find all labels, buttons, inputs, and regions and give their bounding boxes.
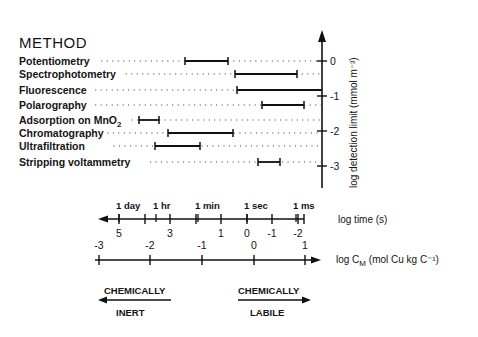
svg-text:CHEMICALLY: CHEMICALLY xyxy=(238,285,300,296)
time-tick-label: 0 xyxy=(244,227,250,239)
method-label: Fluorescence xyxy=(19,84,87,96)
chemically-labile-annotation: CHEMICALLY LABILE xyxy=(238,285,311,318)
arrow-right-icon xyxy=(311,257,321,264)
arrow-up-icon xyxy=(318,30,326,42)
cm-tick-label: -3 xyxy=(94,239,103,251)
method-row: Stripping voltammetry xyxy=(19,156,321,168)
method-row: Chromatography xyxy=(19,127,321,139)
cm-tick-label: 0 xyxy=(251,239,257,251)
method-row: Polarography xyxy=(19,99,321,111)
method-row: Ultrafiltration xyxy=(19,140,321,152)
y-axis-title: log detection limit (mmol m⁻³) xyxy=(348,57,359,188)
method-label: Polarography xyxy=(19,99,87,111)
chemically-inert-annotation: CHEMICALLY INERT xyxy=(98,285,171,318)
method-label: Chromatography xyxy=(19,127,104,139)
time-axis: 1 day1 hr1 min1 sec1 ms 5310-1-2 log tim… xyxy=(98,200,387,239)
time-tick-label: 1 xyxy=(218,227,224,239)
cm-axis: -3-2-101 log CM (mol Cu kg C⁻¹) xyxy=(94,239,439,268)
cm-axis-title: log CM (mol Cu kg C⁻¹) xyxy=(336,254,439,268)
method-heading: METHOD xyxy=(19,34,87,51)
time-tick-label: 5 xyxy=(116,227,122,239)
y-tick-label: -3 xyxy=(330,160,339,172)
arrow-left-icon xyxy=(98,216,108,223)
time-marker-label: 1 day xyxy=(116,200,141,211)
time-marker-label: 1 sec xyxy=(244,200,268,211)
method-row: Spectrophotometry xyxy=(19,68,321,80)
y-tick-label: -1 xyxy=(330,90,339,102)
time-axis-title: log time (s) xyxy=(338,214,387,225)
arrow-left-icon xyxy=(98,297,107,304)
svg-text:CHEMICALLY: CHEMICALLY xyxy=(104,285,166,296)
method-rows: PotentiometrySpectrophotometryFluorescen… xyxy=(19,55,322,168)
time-tick-label: -2 xyxy=(293,227,302,239)
svg-text:LABILE: LABILE xyxy=(250,307,284,318)
method-label: Stripping voltammetry xyxy=(19,156,131,168)
cm-tick-label: -2 xyxy=(145,239,154,251)
time-marker-label: 1 min xyxy=(195,200,220,211)
method-row: Fluorescence xyxy=(19,84,322,96)
method-label: Spectrophotometry xyxy=(19,68,116,80)
time-tick-label: 3 xyxy=(167,227,173,239)
detection-limit-axis: 0-1-2-3 log detection limit (mmol m⁻³) xyxy=(317,30,359,188)
time-tick-label: -1 xyxy=(267,227,276,239)
method-label: Potentiometry xyxy=(19,55,90,67)
detection-limit-diagram: METHOD PotentiometrySpectrophotometryFlu… xyxy=(0,0,478,337)
arrow-right-icon xyxy=(302,297,311,304)
svg-text:INERT: INERT xyxy=(116,307,145,318)
y-tick-label: -2 xyxy=(330,125,339,137)
cm-tick-label: 1 xyxy=(302,239,308,251)
time-marker-label: 1 ms xyxy=(293,200,315,211)
method-label: Ultrafiltration xyxy=(19,140,85,152)
y-tick-label: 0 xyxy=(330,55,336,67)
method-row: Potentiometry xyxy=(19,55,321,67)
cm-tick-label: -1 xyxy=(197,239,206,251)
time-marker-label: 1 hr xyxy=(153,200,171,211)
